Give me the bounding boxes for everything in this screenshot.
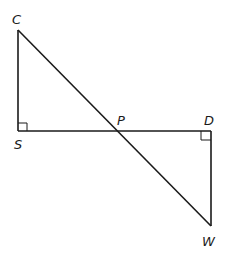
label-p: P (117, 113, 125, 128)
right-angle-marker-s (18, 123, 27, 131)
right-angle-marker-d (201, 131, 211, 140)
label-d: D (204, 113, 214, 128)
label-s: S (14, 137, 22, 152)
label-c: C (12, 12, 22, 27)
segment-cw (18, 30, 211, 226)
label-w: W (202, 234, 216, 249)
geometry-diagram: C S P D W (0, 0, 228, 260)
